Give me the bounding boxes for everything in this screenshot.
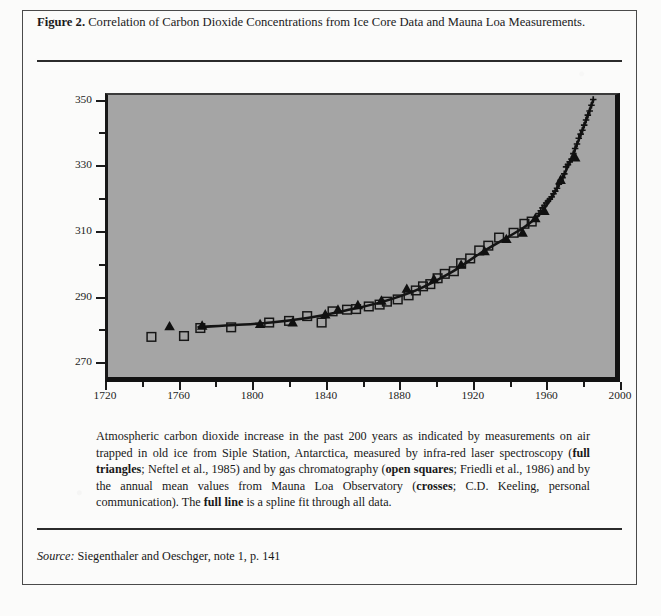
plot-area: [105, 93, 620, 382]
figure-title: Figure 2. Correlation of Carbon Dioxide …: [37, 14, 623, 31]
source-text: Siegenthaler and Oeschger, note 1, p. 14…: [74, 549, 280, 563]
data-point-cross: [590, 96, 596, 102]
data-point-square: [317, 318, 326, 327]
x-tick-mark: [105, 382, 107, 390]
data-point-triangle: [333, 304, 343, 313]
y-tick-mark: [96, 165, 105, 167]
y-tick-label: 350: [50, 94, 92, 105]
figure-title-text: Correlation of Carbon Dioxide Concentrat…: [88, 15, 585, 29]
x-tick-mark-minor: [142, 382, 144, 387]
source-label: Source:: [37, 549, 74, 563]
x-tick-label: 1760: [167, 390, 190, 401]
divider-bottom: [37, 528, 622, 530]
caption-part-1: Atmospheric carbon dioxide increase in t…: [96, 429, 590, 460]
plot-svg: [108, 95, 615, 377]
x-tick-mark: [546, 382, 548, 390]
y-axis: 270290310330350: [55, 93, 105, 382]
x-tick-label: 1920: [461, 390, 484, 401]
x-axis: 17201760180018401880192019602000: [105, 382, 620, 406]
x-tick-label: 2000: [609, 390, 632, 401]
y-tick-label: 330: [50, 159, 92, 170]
y-tick-mark: [96, 362, 105, 364]
y-tick-label: 270: [50, 356, 92, 367]
data-point-triangle: [402, 283, 412, 292]
caption-part-2: ; Neftel et al., 1985) and by gas chroma…: [141, 462, 385, 476]
caption-part-5: is a spline fit through all data.: [243, 495, 391, 509]
y-tick-mark: [96, 231, 105, 233]
x-tick-mark: [473, 382, 475, 390]
divider-top: [37, 60, 622, 62]
x-tick-mark-minor: [289, 382, 291, 387]
x-tick-mark: [179, 382, 181, 390]
x-tick-mark-minor: [510, 382, 512, 387]
y-tick-label: 310: [50, 225, 92, 236]
data-point-square: [180, 332, 189, 341]
caption-bold-fullline: full line: [204, 495, 244, 509]
source-line: Source: Siegenthaler and Oeschger, note …: [37, 548, 280, 564]
data-point-cross: [588, 102, 594, 108]
series-square: [147, 217, 536, 341]
x-tick-mark-minor: [436, 382, 438, 387]
x-tick-mark-minor: [363, 382, 365, 387]
x-tick-mark: [620, 382, 622, 390]
y-tick-mark: [96, 297, 105, 299]
x-tick-mark: [399, 382, 401, 390]
data-point-triangle: [197, 320, 208, 329]
x-tick-label: 1720: [94, 390, 117, 401]
y-tick-mark: [96, 100, 105, 102]
caption-bold-crosses: crosses: [416, 479, 452, 493]
figure-label: Figure 2.: [37, 15, 85, 29]
x-tick-mark-minor: [583, 382, 585, 387]
caption-bold-squares: open squares: [385, 462, 453, 476]
x-tick-mark: [252, 382, 254, 390]
chart-container: 270290310330350 172017601800184018801920…: [55, 85, 630, 395]
figure-caption: Atmospheric carbon dioxide increase in t…: [96, 428, 590, 511]
x-tick-label: 1880: [388, 390, 411, 401]
data-point-triangle: [164, 321, 175, 330]
spline-fit-line: [199, 100, 594, 327]
x-tick-mark: [326, 382, 328, 390]
x-tick-label: 1960: [535, 390, 558, 401]
x-tick-label: 1800: [241, 390, 264, 401]
x-tick-mark-minor: [215, 382, 217, 387]
data-point-square: [147, 333, 156, 342]
y-tick-label: 290: [50, 291, 92, 302]
x-tick-label: 1840: [314, 390, 337, 401]
page-background: Figure 2. Correlation of Carbon Dioxide …: [0, 0, 661, 616]
series-cross: [536, 96, 597, 217]
